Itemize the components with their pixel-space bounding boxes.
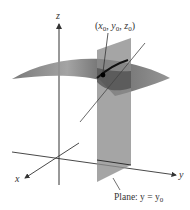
point-label: (x0, y0, z0) bbox=[95, 20, 135, 33]
y-axis-label: y bbox=[178, 169, 184, 180]
point-x0-y0-z0 bbox=[101, 73, 106, 78]
plane-leader-line bbox=[113, 178, 120, 190]
z-axis-label: z bbox=[55, 10, 60, 21]
surface bbox=[12, 59, 170, 96]
y-axis bbox=[12, 152, 176, 175]
partial-derivative-diagram: z x y (x0, y0, z0) Plane: y = y0 bbox=[0, 0, 190, 210]
plane-label: Plane: y = y0 bbox=[114, 192, 164, 204]
diagram-canvas: z x y (x0, y0, z0) Plane: y = y0 bbox=[0, 0, 190, 210]
x-axis-label: x bbox=[14, 173, 20, 184]
